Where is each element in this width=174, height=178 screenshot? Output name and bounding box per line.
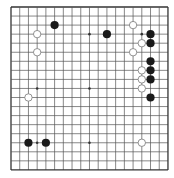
black-stone [146,57,154,65]
black-stone [42,139,50,147]
star-point [88,87,91,90]
white-stone [129,49,136,56]
black-stone [146,66,154,74]
white-stone [25,94,32,101]
white-stone [129,21,136,28]
black-stone [103,30,111,38]
black-stone [24,139,32,147]
star-point [88,33,91,36]
go-board[interactable] [0,0,174,178]
white-stone [33,30,40,37]
black-stone [146,75,154,83]
white-stone [138,67,145,74]
white-stone [138,40,145,47]
black-stone [146,93,154,101]
black-stone [51,21,59,29]
white-stone [138,76,145,83]
black-stone [146,39,154,47]
star-point [36,141,39,144]
white-stone [33,49,40,56]
white-stone [138,139,145,146]
star-point [88,141,91,144]
white-stone [138,85,145,92]
star-point [36,87,39,90]
go-board-grid[interactable] [0,0,174,178]
star-point [141,33,144,36]
black-stone [146,30,154,38]
